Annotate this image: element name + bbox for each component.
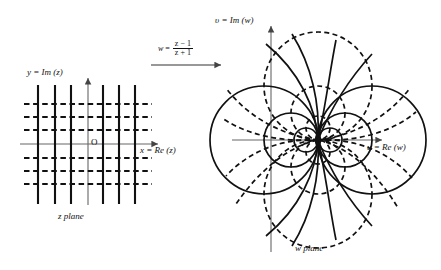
w-dashed-arc [226,140,318,176]
mapping-diagram-svg [0,0,441,270]
z-plane-caption: z plane [58,212,84,221]
w-dashed-arc [222,118,318,140]
formula-equals: = [165,45,170,53]
formula-denominator: z + 1 [173,48,193,57]
transformation-formula: w = z − 1 z + 1 [158,40,193,58]
w-solid-arc [318,40,336,140]
z-y-axis-label: y = Im (z) [27,68,63,77]
w-plane-group [210,26,426,252]
z-origin-label: O [91,138,98,147]
w-solid-arc [266,140,318,236]
w-v-axis-label: υ = Im (w) [215,16,253,25]
formula-numerator: z − 1 [173,40,193,48]
w-u-axis-label: u = Re (w) [367,143,406,152]
z-plane-group [20,78,158,205]
w-dashed-arc [226,88,318,140]
z-axes [20,78,158,205]
w-plane-caption: w plane [295,244,323,253]
w-node-point [315,133,321,147]
z-x-axis-label: x = Re (z) [140,146,176,155]
w-solid-arc [266,44,318,140]
formula-lhs: w [158,44,163,53]
figure-canvas: y = Im (z) x = Re (z) O z plane υ = Im (… [0,0,441,270]
w-dashed-arc [236,140,318,204]
w-solid-arc [292,34,318,140]
